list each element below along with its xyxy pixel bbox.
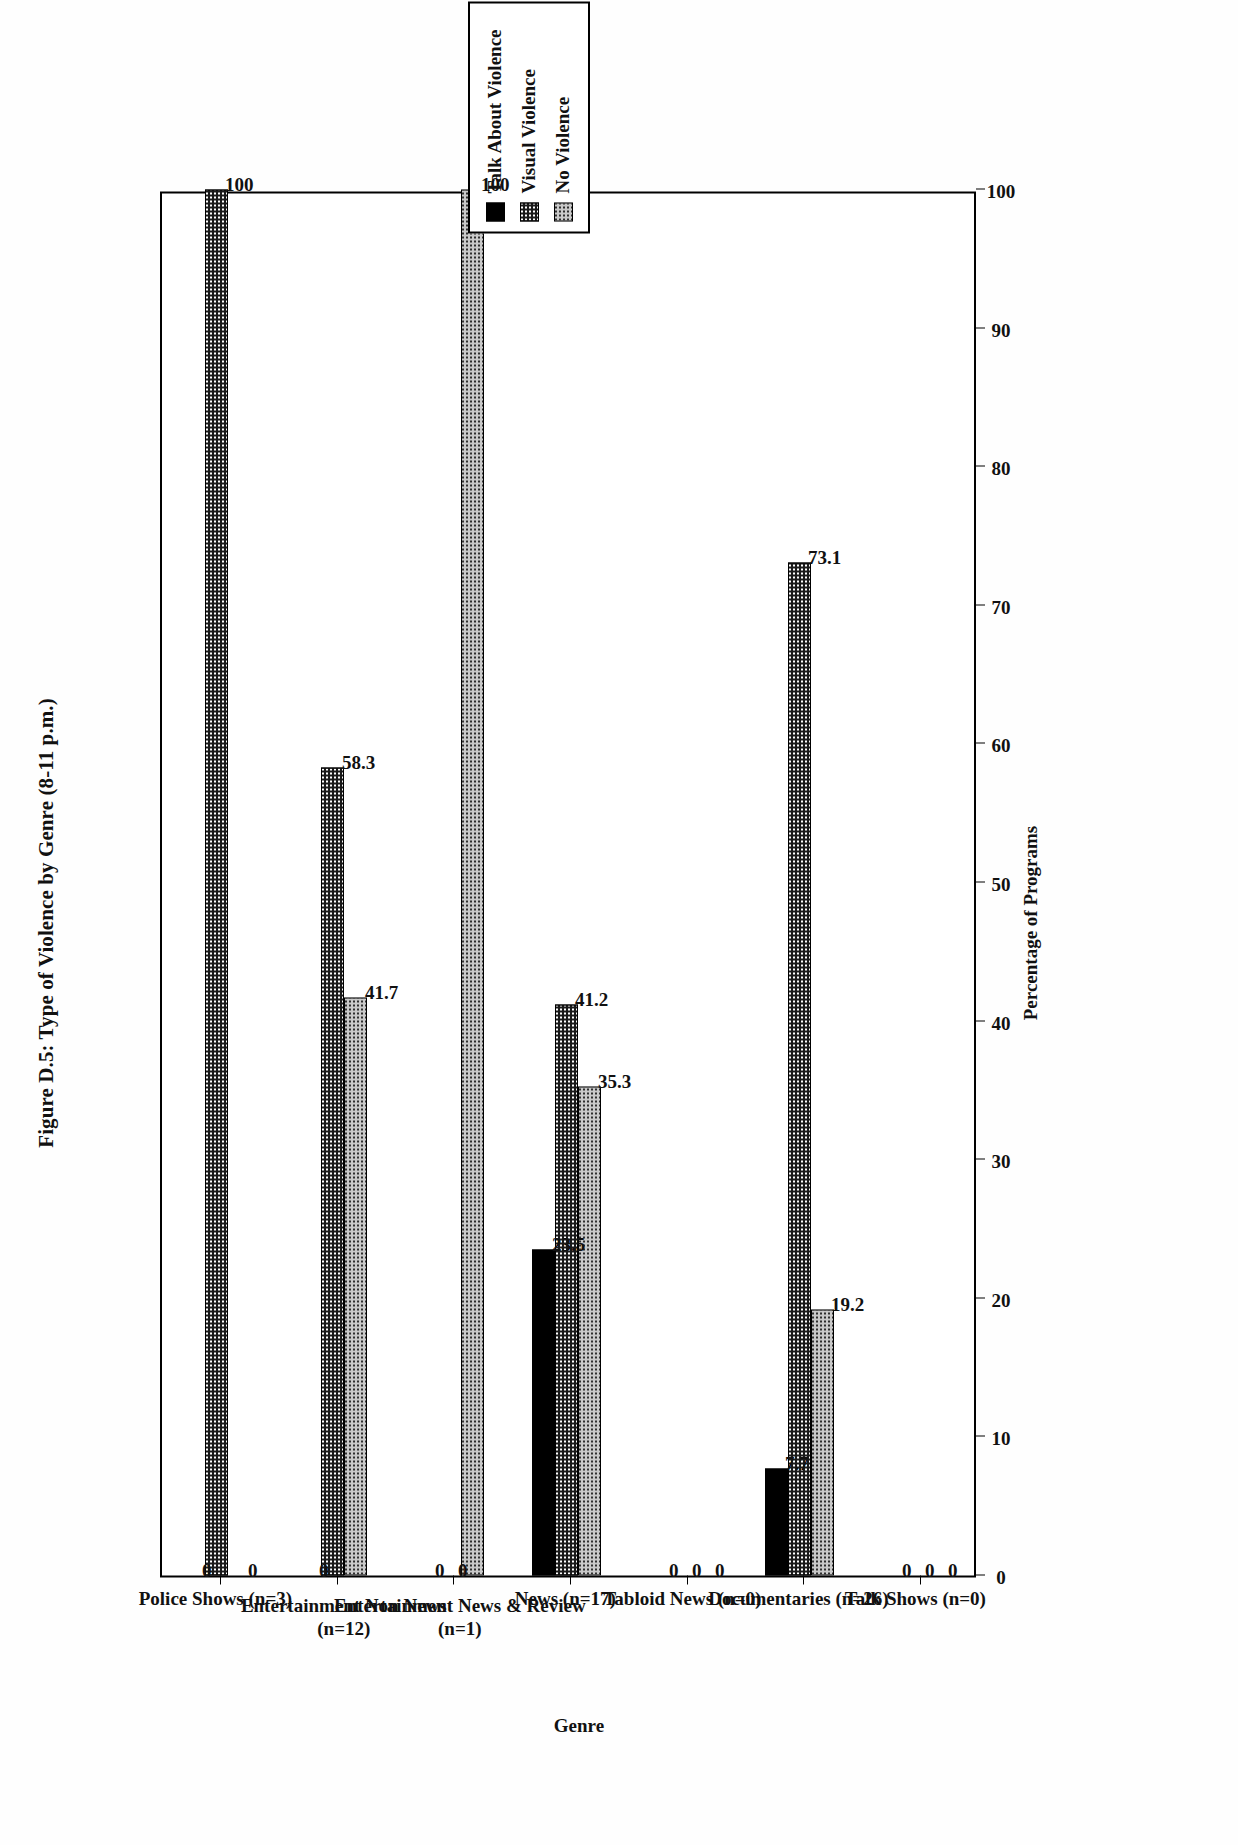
value-axis-label: 100	[987, 180, 1016, 202]
bar-value-label: 7.7	[785, 1452, 809, 1474]
legend-label: Visual Violence	[518, 69, 540, 193]
value-axis-label: 10	[992, 1427, 1011, 1449]
bar-value-label: 0	[435, 1559, 445, 1581]
value-axis-label: 70	[992, 596, 1011, 618]
bar	[321, 767, 344, 1575]
bar	[344, 997, 367, 1575]
value-axis-tick	[976, 1574, 985, 1575]
bar	[765, 1468, 788, 1575]
bar-value-label: 58.3	[342, 751, 375, 773]
bar-value-label: 0	[902, 1559, 912, 1581]
value-axis-tick	[976, 881, 985, 882]
value-axis-label: 30	[992, 1150, 1011, 1172]
category-axis-tick	[337, 1575, 338, 1584]
category-label-line: Talk Shows (n=0)	[785, 1588, 1045, 1611]
value-axis-tick	[976, 604, 985, 605]
value-axis-tick	[976, 1297, 985, 1298]
value-axis-tick	[976, 327, 985, 328]
value-axis-label: 40	[992, 1012, 1011, 1034]
category-axis-tick	[453, 1575, 454, 1584]
legend-item: Visual Violence	[512, 13, 546, 221]
bar	[578, 1086, 601, 1575]
category-axis-tick	[803, 1575, 804, 1584]
bar-value-label: 100	[481, 173, 510, 195]
value-axis-tick	[976, 1020, 985, 1021]
x-axis-title: Percentage of Programs	[1020, 0, 1042, 1845]
legend-item: No Violence	[546, 13, 580, 221]
legend-swatch-no-violence	[554, 202, 573, 221]
category-label-line: (n=1)	[330, 1617, 590, 1640]
category-axis-tick	[570, 1575, 571, 1584]
category-axis-tick	[920, 1575, 921, 1584]
value-axis-tick	[976, 1158, 985, 1159]
bar-value-label: 0	[948, 1559, 958, 1581]
bar-value-label: 0	[458, 1559, 468, 1581]
bar-value-label: 0	[715, 1559, 725, 1581]
bar	[788, 562, 811, 1575]
bar-value-label: 23.5	[552, 1233, 585, 1255]
bar-value-label: 0	[925, 1559, 935, 1581]
bar-value-label: 41.7	[365, 981, 398, 1003]
bar-value-label: 0	[319, 1559, 329, 1581]
chart-stage: Figure D.5: Type of Violence by Genre (8…	[0, 0, 1238, 1845]
value-axis-label: 80	[992, 457, 1011, 479]
bar-value-label: 100	[225, 173, 254, 195]
bar-value-label: 73.1	[808, 546, 841, 568]
legend-label: No Violence	[552, 96, 574, 193]
category-axis-label: Talk Shows (n=0)	[785, 1588, 1045, 1611]
value-axis-tick	[976, 1435, 985, 1436]
bar-value-label: 35.3	[598, 1070, 631, 1092]
bar	[532, 1249, 555, 1575]
category-axis-tick	[220, 1575, 221, 1584]
page-title: Figure D.5: Type of Violence by Genre (8…	[34, 0, 59, 1845]
bar-value-label: 41.2	[575, 988, 608, 1010]
value-axis-label: 60	[992, 734, 1011, 756]
value-axis-label: 0	[996, 1566, 1006, 1588]
value-axis-tick	[976, 742, 985, 743]
bar-value-label: 0	[248, 1559, 258, 1581]
value-axis-label: 50	[992, 873, 1011, 895]
plot-area	[160, 191, 976, 1577]
bar	[555, 1004, 578, 1575]
y-axis-title: Genre	[519, 1714, 639, 1736]
value-axis-tick	[976, 465, 985, 466]
value-axis-label: 90	[992, 319, 1011, 341]
legend-label: Talk About Violence	[484, 29, 506, 193]
category-axis-tick	[687, 1575, 688, 1584]
bar-value-label: 0	[692, 1559, 702, 1581]
bar-value-label: 0	[669, 1559, 679, 1581]
bar	[811, 1309, 834, 1575]
value-axis-label: 20	[992, 1289, 1011, 1311]
bar-value-label: 0	[202, 1559, 212, 1581]
legend-swatch-visual-violence	[520, 202, 539, 221]
legend-swatch-talk-about-violence	[486, 202, 505, 221]
value-axis-tick	[976, 188, 985, 189]
bar	[205, 189, 228, 1575]
bar	[461, 189, 484, 1575]
legend: Talk About Violence Visual Violence No V…	[468, 1, 590, 233]
bar-value-label: 19.2	[831, 1293, 864, 1315]
